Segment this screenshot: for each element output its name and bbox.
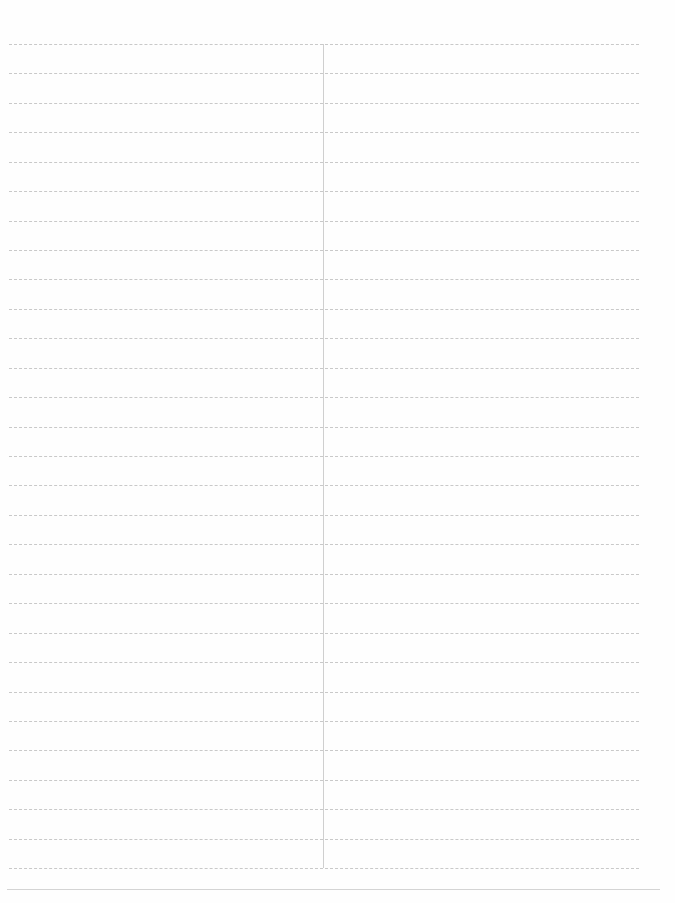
ruled-line bbox=[9, 132, 639, 133]
ruled-line bbox=[9, 368, 639, 369]
ruled-line bbox=[9, 397, 639, 398]
ruled-line bbox=[9, 809, 639, 810]
ruled-line bbox=[9, 485, 639, 486]
ruled-page bbox=[0, 0, 675, 903]
ruled-line bbox=[9, 427, 639, 428]
ruled-line bbox=[9, 839, 639, 840]
ruled-line bbox=[9, 721, 639, 722]
ruled-line bbox=[9, 544, 639, 545]
column-divider bbox=[323, 44, 324, 868]
ruled-line bbox=[9, 662, 639, 663]
ruled-line bbox=[9, 780, 639, 781]
ruled-line bbox=[9, 750, 639, 751]
ruled-line bbox=[9, 868, 639, 869]
ruled-line bbox=[9, 73, 639, 74]
ruled-line bbox=[9, 574, 639, 575]
ruled-line bbox=[9, 603, 639, 604]
ruled-line bbox=[9, 515, 639, 516]
ruled-line bbox=[9, 162, 639, 163]
ruled-line bbox=[9, 44, 639, 45]
ruled-line bbox=[9, 338, 639, 339]
ruled-line bbox=[9, 191, 639, 192]
ruled-line bbox=[9, 309, 639, 310]
ruled-line bbox=[9, 221, 639, 222]
ruled-line bbox=[9, 692, 639, 693]
bottom-border-line bbox=[7, 889, 660, 890]
ruled-line bbox=[9, 103, 639, 104]
ruled-line bbox=[9, 633, 639, 634]
ruled-line bbox=[9, 250, 639, 251]
ruled-line bbox=[9, 279, 639, 280]
ruled-line bbox=[9, 456, 639, 457]
